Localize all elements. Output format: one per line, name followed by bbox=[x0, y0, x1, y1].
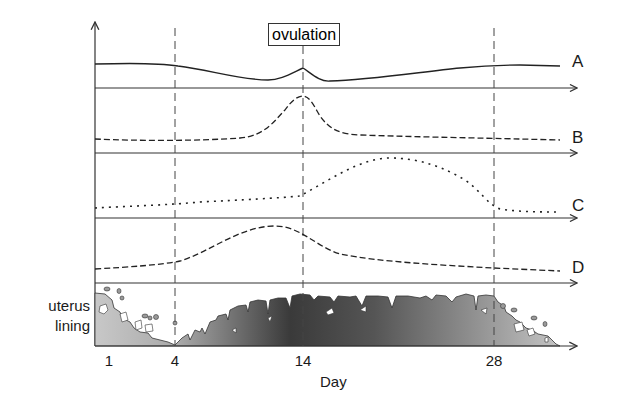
tick-day-4: 4 bbox=[171, 352, 179, 369]
baselines bbox=[95, 88, 577, 283]
tick-day-28: 28 bbox=[486, 352, 503, 369]
curve-a bbox=[95, 63, 560, 81]
curve-label-c: C bbox=[572, 196, 584, 216]
uterus-lining-graphic bbox=[95, 287, 560, 346]
uterus-lining-shape bbox=[95, 293, 560, 346]
curve-b bbox=[95, 96, 560, 140]
curve-label-b: B bbox=[572, 128, 583, 148]
curve-label-a: A bbox=[572, 52, 583, 72]
curve-label-d: D bbox=[572, 258, 584, 278]
tick-day-14: 14 bbox=[295, 352, 312, 369]
tick-day-1: 1 bbox=[105, 352, 113, 369]
ovulation-annotation: ovulation bbox=[268, 23, 340, 46]
x-axis-title: Day bbox=[320, 373, 347, 390]
curve-c bbox=[95, 158, 560, 212]
lining-label-line2: lining bbox=[55, 316, 90, 336]
curve-d bbox=[95, 226, 560, 271]
menstrual-cycle-diagram bbox=[0, 0, 620, 408]
lining-label-line1: uterus bbox=[48, 296, 90, 316]
